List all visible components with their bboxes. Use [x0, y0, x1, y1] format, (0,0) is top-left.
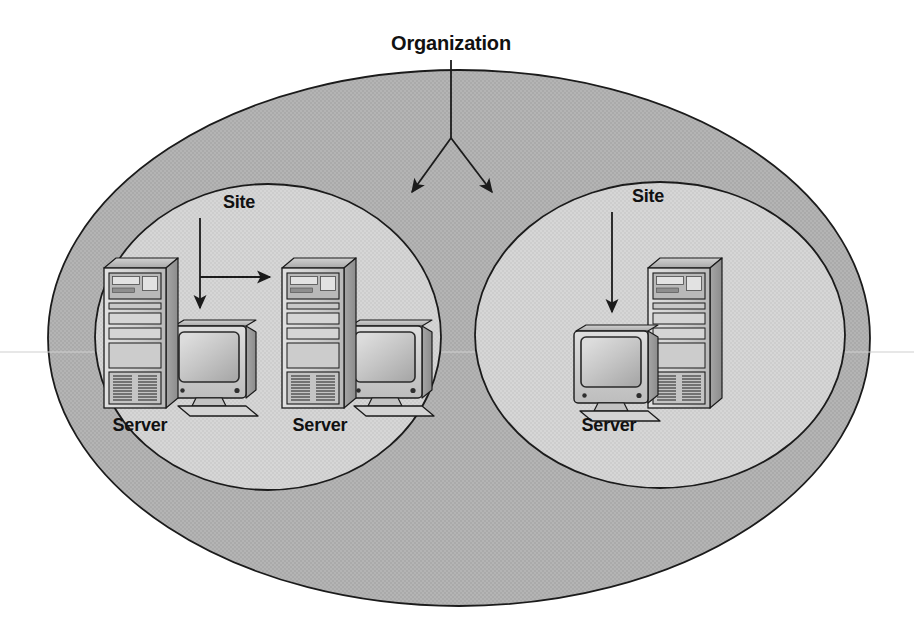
server-label-3: Server: [582, 415, 637, 435]
server-tower-1: [104, 258, 178, 408]
server-label-2: Server: [293, 415, 348, 435]
server-tower-3: [648, 258, 722, 408]
site-label-right: Site: [632, 186, 664, 206]
site-label-left: Site: [223, 192, 255, 212]
diagram-canvas: Organization Site Site Server: [0, 0, 914, 638]
server-tower-2: [282, 258, 356, 408]
server-label-1: Server: [113, 415, 168, 435]
organization-label: Organization: [391, 32, 511, 54]
organization-sites-diagram: Organization Site Site Server: [0, 0, 914, 638]
